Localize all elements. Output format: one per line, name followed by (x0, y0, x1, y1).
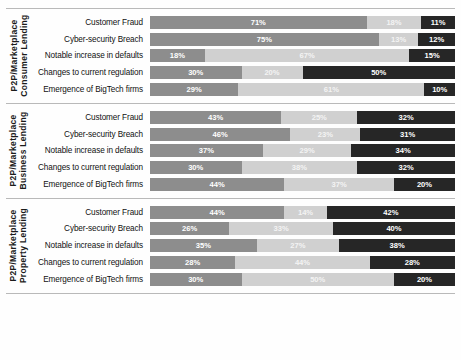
chart-row: Cyber-security Breach46%23%31% (32, 127, 455, 141)
chart-row: Emergence of BigTech firms29%61%10% (32, 83, 455, 97)
row-category-label: Customer Fraud (32, 113, 150, 122)
chart-row: Cyber-security Breach75%13%12% (32, 32, 455, 46)
bar-segment-1: 37% (150, 144, 263, 157)
chart-row: Notable increase in defaults35%27%38% (32, 239, 455, 253)
bar-segment-2: 44% (235, 256, 369, 269)
panel-group-label: P2P/MarketplaceBusiness Lending (6, 109, 32, 193)
stacked-bar: 75%13%12% (150, 33, 455, 46)
stacked-bar: 46%23%31% (150, 128, 455, 141)
row-category-label: Customer Fraud (32, 208, 150, 217)
chart-row: Customer Fraud43%25%32% (32, 110, 455, 124)
row-category-label: Notable increase in defaults (32, 51, 150, 60)
chart-panel: P2P/MarketplaceProperty LendingCustomer … (6, 198, 455, 294)
row-category-label: Customer Fraud (32, 18, 150, 27)
row-category-label: Cyber-security Breach (32, 35, 150, 44)
bar-segment-2: 14% (284, 206, 327, 219)
row-category-label: Notable increase in defaults (32, 241, 150, 250)
stacked-bar: 26%33%40% (150, 222, 455, 235)
bar-segment-3: 32% (357, 111, 455, 124)
bar-segment-2: 33% (229, 222, 333, 235)
row-category-label: Emergence of BigTech firms (32, 180, 150, 189)
row-category-label: Changes to current regulation (32, 258, 150, 267)
bar-segment-2: 50% (242, 273, 395, 286)
row-category-label: Changes to current regulation (32, 163, 150, 172)
panel-rows: Customer Fraud43%25%32%Cyber-security Br… (32, 109, 455, 193)
bar-segment-1: 30% (150, 66, 242, 79)
bar-segment-2: 67% (205, 49, 409, 62)
panel-rows: Customer Fraud44%14%42%Cyber-security Br… (32, 204, 455, 288)
bar-segment-1: 71% (150, 16, 367, 29)
panel-rows: Customer Fraud71%18%11%Cyber-security Br… (32, 14, 455, 98)
bar-segment-3: 20% (394, 178, 455, 191)
bar-segment-3: 32% (357, 161, 455, 174)
chart-row: Changes to current regulation30%20%50% (32, 66, 455, 80)
bar-segment-3: 28% (370, 256, 455, 269)
stacked-bar: 30%20%50% (150, 66, 455, 79)
bar-segment-3: 12% (418, 33, 455, 46)
stacked-bar: 43%25%32% (150, 111, 455, 124)
bar-segment-2: 29% (263, 144, 351, 157)
stacked-bar: 29%61%10% (150, 83, 455, 96)
stacked-bar: 35%27%38% (150, 239, 455, 252)
bar-segment-1: 18% (150, 49, 205, 62)
chart-row: Notable increase in defaults18%67%15% (32, 49, 455, 63)
bar-segment-3: 11% (421, 16, 455, 29)
panel-group-label-text: P2P/MarketplaceProperty Lending (9, 208, 28, 283)
bar-segment-2: 20% (242, 66, 303, 79)
bar-segment-2: 13% (379, 33, 419, 46)
stacked-bar: 44%37%20% (150, 178, 455, 191)
bar-segment-3: 34% (351, 144, 455, 157)
row-category-label: Emergence of BigTech firms (32, 275, 150, 284)
bar-segment-1: 30% (150, 161, 242, 174)
chart-panel: P2P/MarketplaceBusiness LendingCustomer … (6, 103, 455, 198)
bar-segment-3: 10% (424, 83, 455, 96)
chart-row: Cyber-security Breach26%33%40% (32, 222, 455, 236)
stacked-bar: 71%18%11% (150, 16, 455, 29)
panel-group-label: P2P/MarketplaceProperty Lending (6, 204, 32, 288)
chart-panels: P2P/MarketplaceConsumer LendingCustomer … (6, 8, 455, 294)
bar-segment-1: 44% (150, 206, 284, 219)
chart-row: Notable increase in defaults37%29%34% (32, 144, 455, 158)
bar-segment-2: 25% (281, 111, 357, 124)
chart-row: Customer Fraud44%14%42% (32, 205, 455, 219)
row-category-label: Notable increase in defaults (32, 146, 150, 155)
chart-row: Customer Fraud71%18%11% (32, 15, 455, 29)
chart-row: Emergence of BigTech firms30%50%20% (32, 272, 455, 286)
stacked-bar: 18%67%15% (150, 49, 455, 62)
bar-segment-2: 37% (284, 178, 394, 191)
stacked-bar: 30%50%20% (150, 273, 455, 286)
panel-group-label-text: P2P/MarketplaceBusiness Lending (9, 112, 28, 190)
bar-segment-3: 31% (360, 128, 455, 141)
chart-row: Emergence of BigTech firms44%37%20% (32, 177, 455, 191)
chart-row: Changes to current regulation28%44%28% (32, 256, 455, 270)
bar-segment-2: 61% (238, 83, 424, 96)
stacked-bar: 28%44%28% (150, 256, 455, 269)
row-category-label: Cyber-security Breach (32, 224, 150, 233)
panel-group-label: P2P/MarketplaceConsumer Lending (6, 14, 32, 98)
bar-segment-2: 18% (367, 16, 422, 29)
stacked-bar: 44%14%42% (150, 206, 455, 219)
bar-segment-1: 43% (150, 111, 281, 124)
bar-segment-2: 27% (257, 239, 339, 252)
chart-row: Changes to current regulation30%38%32% (32, 161, 455, 175)
bar-segment-3: 42% (327, 206, 455, 219)
bar-segment-1: 44% (150, 178, 284, 191)
bar-segment-1: 30% (150, 273, 242, 286)
stacked-bar-chart: P2P/MarketplaceConsumer LendingCustomer … (0, 0, 461, 360)
row-category-label: Cyber-security Breach (32, 130, 150, 139)
bar-segment-1: 29% (150, 83, 238, 96)
row-category-label: Emergence of BigTech firms (32, 85, 150, 94)
row-category-label: Changes to current regulation (32, 68, 150, 77)
bar-segment-3: 20% (394, 273, 455, 286)
bar-segment-1: 75% (150, 33, 379, 46)
stacked-bar: 30%38%32% (150, 161, 455, 174)
bar-segment-2: 23% (290, 128, 360, 141)
bar-segment-3: 40% (333, 222, 455, 235)
stacked-bar: 37%29%34% (150, 144, 455, 157)
bar-segment-2: 38% (242, 161, 358, 174)
bar-segment-1: 46% (150, 128, 290, 141)
bar-segment-1: 28% (150, 256, 235, 269)
chart-panel: P2P/MarketplaceConsumer LendingCustomer … (6, 8, 455, 103)
bar-segment-1: 26% (150, 222, 229, 235)
bar-segment-3: 15% (409, 49, 455, 62)
